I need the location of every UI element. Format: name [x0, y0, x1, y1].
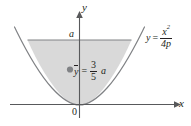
height-a-label: a	[69, 29, 74, 39]
centroid-fraction: 3 5	[90, 60, 97, 82]
centroid-equals-sign: =	[81, 66, 87, 76]
curve-equation-denominator-variable: p	[166, 38, 171, 49]
curve-equation-lhs: y	[146, 33, 150, 43]
curve-equation-equals-sign: =	[152, 33, 158, 43]
curve-equation-fraction: x2 4p	[160, 27, 172, 49]
centroid-fraction-denominator: 5	[90, 72, 97, 82]
curve-equation-label: y = x2 4p	[146, 27, 172, 49]
centroid-y-bar-symbol: y	[74, 66, 78, 77]
origin-label: 0	[72, 107, 77, 117]
curve-equation-numerator: x2	[161, 27, 171, 37]
y-axis-label: y	[82, 2, 87, 13]
curve-equation-numerator-exponent: 2	[167, 23, 170, 30]
x-axis-label: x	[179, 98, 184, 109]
curve-equation-denominator: 4p	[160, 39, 172, 49]
parabola-centroid-figure: y x a 0 y = 3 5 a y = x2 4p	[0, 0, 191, 126]
centroid-point	[67, 66, 73, 72]
centroid-equation-label: y = 3 5 a	[74, 60, 106, 82]
centroid-variable-a: a	[101, 66, 106, 76]
centroid-fraction-numerator: 3	[90, 60, 97, 70]
